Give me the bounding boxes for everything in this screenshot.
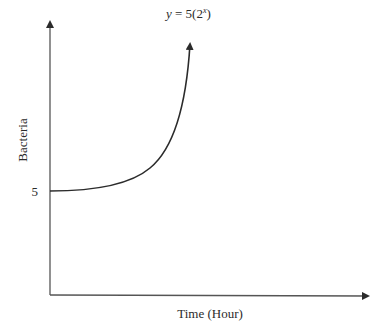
- y-axis-label: Bacteria: [15, 118, 30, 162]
- exponential-growth-chart: 5 Bacteria Time (Hour) y = 5(2x): [0, 0, 390, 334]
- exponential-curve: [50, 44, 190, 191]
- equation-label: y = 5(2x): [164, 6, 211, 21]
- x-axis-label: Time (Hour): [177, 306, 243, 321]
- y-tick-5: 5: [32, 184, 39, 199]
- x-axis: [50, 295, 368, 296]
